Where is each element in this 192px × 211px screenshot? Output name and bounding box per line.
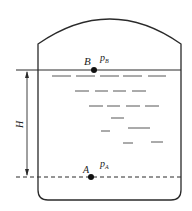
pressure-a-label: pA <box>99 158 109 170</box>
tank-outline <box>38 19 181 200</box>
height-dimension <box>25 71 29 176</box>
point-b-marker <box>91 67 97 73</box>
height-label: H <box>14 120 25 129</box>
liquid-hatching <box>52 76 166 143</box>
point-a-label: A <box>82 164 90 175</box>
point-b-label: B <box>84 55 91 67</box>
pressure-b-label: pB <box>99 52 109 64</box>
arrow-down-icon <box>25 169 29 176</box>
tank-diagram: B pB A pA H <box>0 0 192 211</box>
arrow-up-icon <box>25 71 29 78</box>
